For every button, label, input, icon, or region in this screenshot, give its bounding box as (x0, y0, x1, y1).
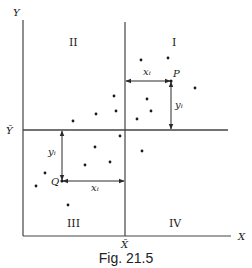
scatter-deviation-diagram: Y X Ȳ X̄ I II III IV (0, 0, 252, 268)
p-xi-label: xᵢ (143, 66, 151, 77)
quadrant-label-4: IV (169, 217, 182, 230)
q-xi-label: xᵢ (91, 182, 99, 193)
p-yi-label: yᵢ (174, 99, 183, 110)
q-yi-label: yᵢ (47, 146, 56, 157)
x-axis-label: X (237, 231, 246, 242)
point-p-label: P (172, 68, 180, 79)
point-q-label: Q (51, 176, 59, 187)
x-mean-label: X̄ (120, 239, 129, 250)
quadrant-label-2: II (69, 36, 78, 49)
figure-caption: Fig. 21.5 (0, 250, 252, 266)
quadrant-label-1: I (172, 36, 176, 49)
y-axis-label: Y (13, 7, 21, 18)
y-mean-label: Ȳ (6, 125, 14, 136)
quadrant-label-3: III (67, 217, 80, 230)
